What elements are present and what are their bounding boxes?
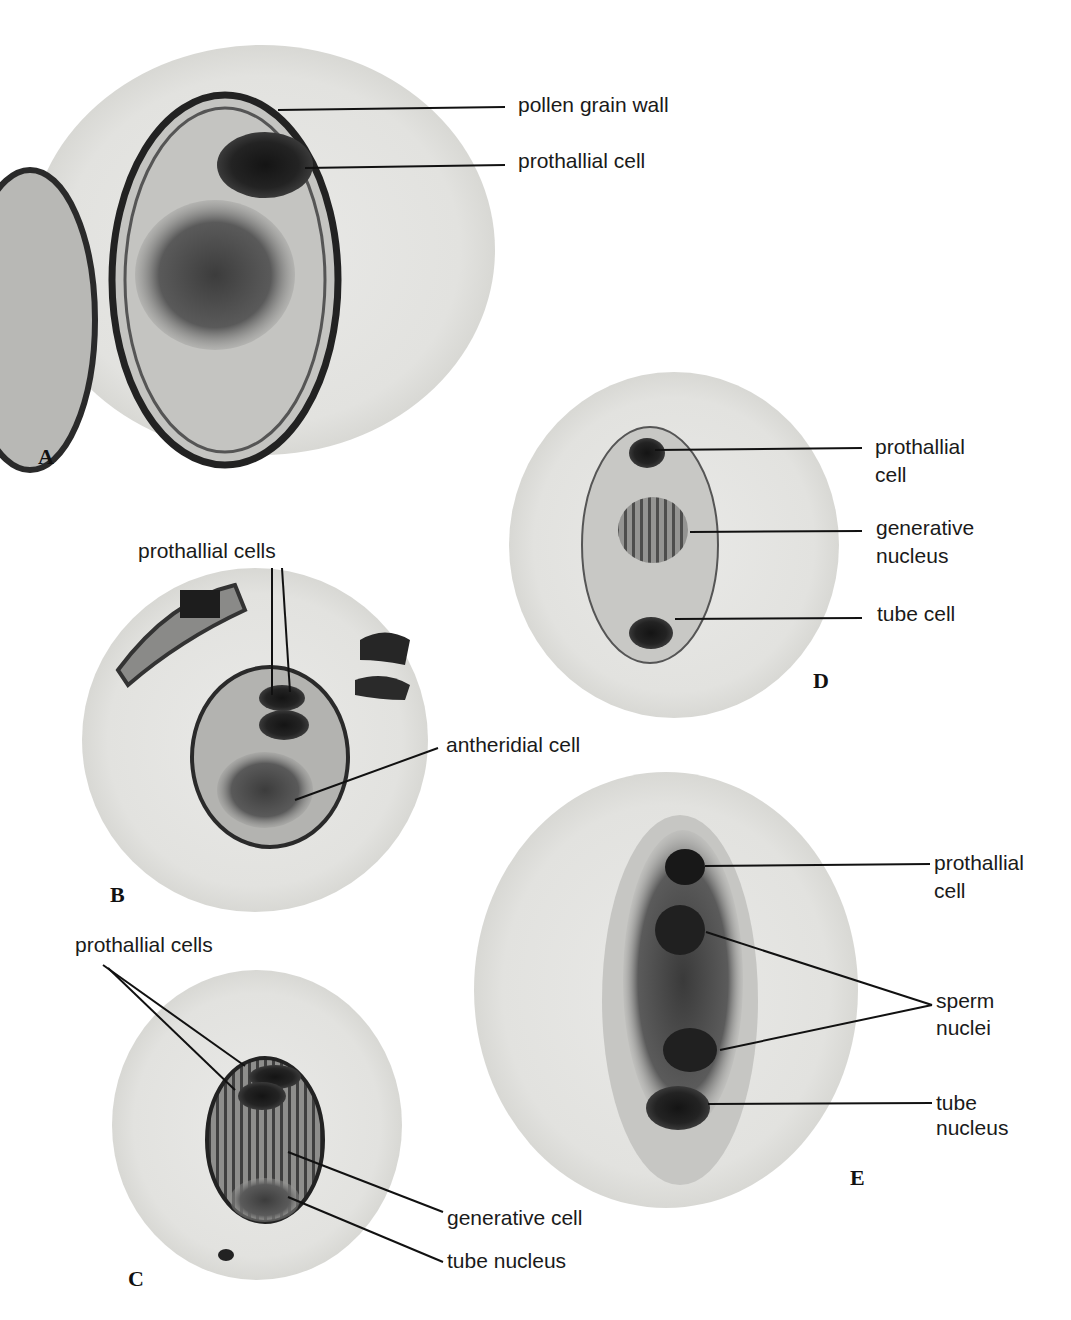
label-antheridial-cell: antheridial cell [446,732,580,758]
label-tube: tube [936,1090,977,1116]
label-generative-cell: generative cell [447,1205,582,1231]
leader-line [690,531,862,532]
leader-line [675,618,862,619]
label-prothallial-cells: prothallial cells [75,932,213,958]
panel-b-micrograph [82,568,428,912]
label-tube-cell: tube cell [877,601,955,627]
label-cell: cell [875,462,907,488]
label-prothallial-cell: prothallial cell [518,148,645,174]
label-nuclei: nuclei [936,1015,991,1041]
label-pollen-grain-wall: pollen grain wall [518,92,669,118]
panel-letter-e: E [850,1165,865,1191]
panel-letter-b: B [110,882,125,908]
panel-letter-a: A [38,444,54,470]
label-cell: cell [934,878,966,904]
panel-e-micrograph [474,772,858,1208]
label-prothallial: prothallial [875,434,965,460]
leader-line [708,1103,932,1104]
micrograph-plate [0,0,1071,1320]
label-tube-nucleus: tube nucleus [447,1248,566,1274]
label-generative: generative [876,515,974,541]
panel-letter-d: D [813,668,829,694]
label-prothallial-cells: prothallial cells [138,538,276,564]
label-sperm: sperm [936,988,994,1014]
panel-d-micrograph [509,372,839,718]
label-prothallial: prothallial [934,850,1024,876]
panel-letter-c: C [128,1266,144,1292]
panel-c-micrograph [112,970,402,1280]
label-nucleus: nucleus [936,1115,1008,1141]
label-nucleus: nucleus [876,543,948,569]
